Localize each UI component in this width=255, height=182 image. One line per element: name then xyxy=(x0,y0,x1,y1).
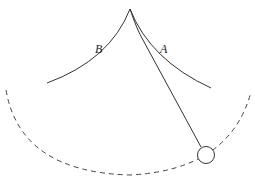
cheek-curve-b xyxy=(47,9,130,83)
cheek-curve-a xyxy=(130,9,211,88)
diagram-canvas xyxy=(0,0,255,182)
cycloidal-pendulum-diagram: B A xyxy=(0,0,255,182)
label-a: A xyxy=(160,43,167,55)
label-b: B xyxy=(95,43,102,55)
bob-trajectory xyxy=(6,90,251,175)
pendulum-bob xyxy=(198,147,215,164)
